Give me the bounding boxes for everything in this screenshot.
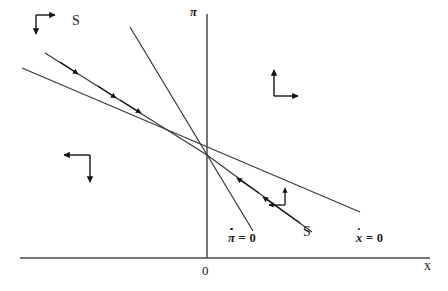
saddle-arrow-lower-1 xyxy=(237,178,259,193)
pi-dot-zero-equals: = 0 xyxy=(235,231,256,245)
phase-diagram-figure: π x 0 π = 0 x = 0 S S xyxy=(0,0,448,291)
axis-group xyxy=(20,14,430,258)
origin-label: 0 xyxy=(202,264,209,277)
x-dot-glyph: x xyxy=(356,232,363,245)
x-dot-zero-locus xyxy=(22,68,360,212)
pi-dot-zero-locus xyxy=(130,27,253,231)
x-dot-zero-label: x = 0 xyxy=(356,232,383,245)
saddle-arrow-upper-1 xyxy=(60,62,78,74)
phase-diagram-canvas xyxy=(0,0,448,291)
saddle-path-label-upper: S xyxy=(72,14,80,28)
loci-group xyxy=(22,27,360,231)
pi-dot-zero-label: π = 0 xyxy=(228,232,256,245)
motion-arrows-northwest-region xyxy=(36,15,55,34)
x-dot-zero-equals: = 0 xyxy=(363,231,384,245)
saddle-arrow-lower-2 xyxy=(263,197,300,223)
saddle-arrow-upper-2 xyxy=(98,86,116,98)
motion-arrows-southwest-region xyxy=(64,155,90,182)
pi-dot-glyph: π xyxy=(228,232,235,245)
motion-arrows-northeast-region xyxy=(274,70,298,96)
saddle-path-label-lower: S xyxy=(303,225,311,239)
overdot-mark xyxy=(230,228,232,230)
vertical-axis-label-pi: π xyxy=(190,6,197,19)
horizontal-axis-label-x: x xyxy=(424,259,431,273)
